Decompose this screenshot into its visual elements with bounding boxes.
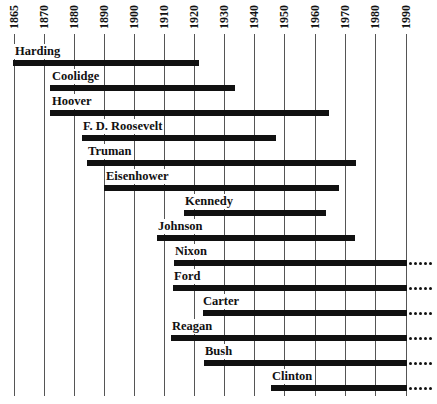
person-name-label: Kennedy	[184, 194, 234, 209]
timeline-row: Bush	[0, 344, 437, 368]
x-tick-text: 1920	[187, 5, 202, 29]
x-tick-text: 1910	[157, 5, 172, 29]
x-tick-label: 1870	[37, 2, 51, 32]
x-tick-text: 1960	[308, 5, 323, 29]
person-name-label: Reagan	[171, 319, 213, 334]
timeline-row: Ford	[0, 269, 437, 293]
x-tick-label: 1920	[187, 2, 201, 32]
person-name-label: Harding	[14, 44, 61, 59]
ongoing-dots-icon	[409, 310, 432, 316]
x-tick-label: 1930	[217, 2, 231, 32]
timeline-row: Clinton	[0, 369, 437, 393]
ongoing-dots-icon	[409, 335, 432, 341]
x-tick-label: 1980	[368, 2, 382, 32]
lifespan-bar	[87, 160, 356, 166]
x-tick-text: 1980	[368, 5, 383, 29]
timeline-row: Harding	[0, 44, 437, 68]
x-tick-label: 1890	[97, 2, 111, 32]
x-tick-text: 1870	[37, 5, 52, 29]
x-tick-text: 1880	[67, 5, 82, 29]
x-tick-label: 1960	[308, 2, 322, 32]
x-tick-label: 1880	[67, 2, 81, 32]
x-tick-label: 1970	[338, 2, 352, 32]
x-tick-label: 1865	[7, 2, 21, 32]
x-tick-text: 1970	[338, 5, 353, 29]
ongoing-dots-icon	[409, 285, 432, 291]
lifespan-bar	[171, 335, 407, 341]
ongoing-dots-icon	[409, 385, 432, 391]
x-tick-text: 1890	[97, 5, 112, 29]
ongoing-dots-icon	[409, 260, 432, 266]
x-tick-label: 1900	[127, 2, 141, 32]
timeline-row: Nixon	[0, 244, 437, 268]
ongoing-dots-icon	[409, 360, 432, 366]
lifespan-bar	[104, 185, 339, 191]
timeline-row: Johnson	[0, 219, 437, 243]
person-name-label: Carter	[202, 294, 240, 309]
x-tick-text: 1940	[247, 5, 262, 29]
lifespan-timeline-chart: 1865187018801890190019101920193019401950…	[0, 0, 437, 404]
timeline-row: F. D. Roosevelt	[0, 119, 437, 143]
lifespan-bar	[203, 310, 407, 316]
person-name-label: Johnson	[157, 219, 203, 234]
person-name-label: Clinton	[271, 369, 313, 384]
lifespan-bar	[82, 135, 276, 141]
timeline-row: Coolidge	[0, 69, 437, 93]
timeline-row: Carter	[0, 294, 437, 318]
person-name-label: Ford	[173, 269, 201, 284]
x-tick-label: 1940	[247, 2, 261, 32]
x-tick-text: 1990	[399, 5, 414, 29]
lifespan-bar	[173, 285, 407, 291]
person-name-label: Coolidge	[51, 69, 100, 84]
timeline-row: Eisenhower	[0, 169, 437, 193]
x-tick-label: 1910	[157, 2, 171, 32]
person-name-label: Hoover	[51, 94, 93, 109]
person-name-label: Nixon	[174, 244, 208, 259]
person-name-label: Eisenhower	[105, 169, 170, 184]
lifespan-bar	[157, 235, 355, 241]
x-tick-text: 1900	[127, 5, 142, 29]
x-tick-text: 1865	[7, 5, 22, 29]
timeline-row: Truman	[0, 144, 437, 168]
x-tick-text: 1950	[277, 5, 292, 29]
x-tick-text: 1930	[217, 5, 232, 29]
person-name-label: Bush	[204, 344, 233, 359]
person-name-label: Truman	[87, 144, 133, 159]
lifespan-bar	[50, 85, 235, 91]
person-name-label: F. D. Roosevelt	[82, 119, 163, 134]
lifespan-bar	[271, 385, 407, 391]
lifespan-bar	[174, 260, 407, 266]
lifespan-bar	[184, 210, 326, 216]
lifespan-bar	[13, 60, 199, 66]
timeline-row: Hoover	[0, 94, 437, 118]
x-tick-label: 1950	[277, 2, 291, 32]
lifespan-bar	[50, 110, 329, 116]
timeline-row: Reagan	[0, 319, 437, 343]
timeline-row: Kennedy	[0, 194, 437, 218]
x-tick-label: 1990	[399, 2, 413, 32]
lifespan-bar	[204, 360, 407, 366]
